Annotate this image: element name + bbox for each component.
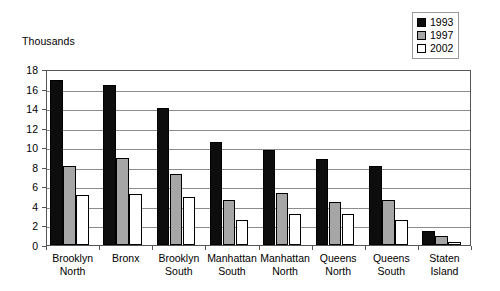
y-tick-label: 12 bbox=[26, 124, 38, 134]
x-category-label: BrooklynSouth bbox=[158, 252, 199, 277]
bar bbox=[395, 220, 408, 245]
chart-legend: 1993 1997 2002 bbox=[412, 12, 459, 59]
x-category-label-line: Island bbox=[429, 265, 459, 278]
x-category-label: Bronx bbox=[112, 252, 139, 265]
legend-label-2002: 2002 bbox=[430, 43, 453, 54]
x-category-label-line: North bbox=[260, 265, 310, 278]
legend-item: 2002 bbox=[417, 42, 453, 55]
bar bbox=[263, 150, 276, 245]
y-tick-label: 16 bbox=[26, 85, 38, 95]
x-tick-mark bbox=[205, 246, 206, 250]
x-category-label-line: Staten bbox=[429, 252, 459, 265]
legend-swatch-1993 bbox=[417, 18, 426, 27]
y-tick-label: 6 bbox=[32, 182, 38, 192]
x-category-label-line: North bbox=[320, 265, 357, 278]
x-tick-mark bbox=[365, 246, 366, 250]
bar bbox=[316, 159, 329, 245]
bar bbox=[382, 200, 395, 245]
bar bbox=[76, 195, 89, 245]
bar bbox=[50, 80, 63, 245]
bar bbox=[236, 220, 249, 245]
x-category-label: BrooklynNorth bbox=[52, 252, 93, 277]
bar bbox=[289, 214, 302, 245]
x-category-label-line: Bronx bbox=[112, 252, 139, 265]
x-category-label: ManhattanNorth bbox=[260, 252, 310, 277]
y-axis: 024681012141618 bbox=[0, 70, 46, 246]
bar bbox=[223, 200, 236, 245]
y-axis-unit-label: Thousands bbox=[22, 35, 75, 47]
x-tick-mark bbox=[152, 246, 153, 250]
x-category-label: ManhattanSouth bbox=[207, 252, 257, 277]
x-category-label-line: South bbox=[207, 265, 257, 278]
bar bbox=[157, 108, 170, 245]
x-tick-mark bbox=[418, 246, 419, 250]
x-category-label-line: Queens bbox=[373, 252, 410, 265]
x-category-label-line: Brooklyn bbox=[158, 252, 199, 265]
bar bbox=[210, 142, 223, 245]
legend-swatch-1997 bbox=[417, 31, 426, 40]
y-tick-label: 0 bbox=[32, 241, 38, 251]
bar bbox=[116, 158, 129, 245]
x-tick-mark bbox=[46, 246, 47, 250]
bar bbox=[170, 174, 183, 245]
bar bbox=[63, 166, 76, 245]
x-category-label-line: Brooklyn bbox=[52, 252, 93, 265]
bar bbox=[276, 193, 289, 245]
bar bbox=[103, 85, 116, 245]
legend-item: 1993 bbox=[417, 16, 453, 29]
bar bbox=[342, 214, 355, 245]
x-category-label: QueensSouth bbox=[373, 252, 410, 277]
legend-item: 1997 bbox=[417, 29, 453, 42]
y-tick-label: 10 bbox=[26, 143, 38, 153]
plot-area bbox=[46, 70, 471, 246]
x-tick-mark bbox=[312, 246, 313, 250]
bar bbox=[369, 166, 382, 245]
x-category-label-line: Manhattan bbox=[260, 252, 310, 265]
bar bbox=[448, 242, 461, 245]
y-tick-label: 2 bbox=[32, 221, 38, 231]
x-tick-mark bbox=[259, 246, 260, 250]
bar bbox=[422, 231, 435, 245]
x-category-label-line: North bbox=[52, 265, 93, 278]
y-tick-label: 8 bbox=[32, 163, 38, 173]
bar bbox=[129, 194, 142, 245]
x-category-label-line: South bbox=[158, 265, 199, 278]
x-category-label: StatenIsland bbox=[429, 252, 459, 277]
y-tick-label: 14 bbox=[26, 104, 38, 114]
bars-layer bbox=[47, 71, 470, 245]
x-category-label-line: Manhattan bbox=[207, 252, 257, 265]
y-tick-label: 18 bbox=[26, 65, 38, 75]
bar bbox=[435, 236, 448, 245]
legend-label-1993: 1993 bbox=[430, 17, 453, 28]
legend-swatch-2002 bbox=[417, 44, 426, 53]
bar bbox=[183, 197, 196, 245]
y-tick-label: 4 bbox=[32, 202, 38, 212]
bar-chart: Thousands 1993 1997 2002 024681012141618… bbox=[0, 0, 500, 291]
x-tick-mark bbox=[471, 246, 472, 250]
x-axis: BrooklynNorthBronxBrooklynSouthManhattan… bbox=[46, 246, 471, 291]
x-category-label-line: South bbox=[373, 265, 410, 278]
x-category-label-line: Queens bbox=[320, 252, 357, 265]
legend-label-1997: 1997 bbox=[430, 30, 453, 41]
x-category-label: QueensNorth bbox=[320, 252, 357, 277]
bar bbox=[329, 202, 342, 245]
x-tick-mark bbox=[99, 246, 100, 250]
